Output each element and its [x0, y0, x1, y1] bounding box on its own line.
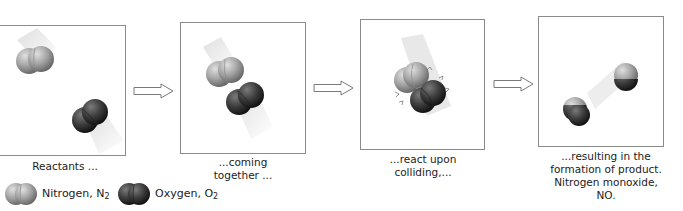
reactant-molecules [0, 26, 127, 157]
caption-line: Nitrogen monoxide, NO. [546, 176, 666, 202]
caption-coming-together: ...coming together ... [198, 156, 288, 182]
nitrogen-molecule-icon [206, 57, 244, 87]
caption-reactants: Reactants ... [20, 160, 110, 173]
panel-product [538, 16, 664, 147]
caption-line: colliding,... [378, 166, 468, 179]
caption-line: ...react upon [378, 153, 468, 166]
panel-react-upon-colliding [360, 19, 485, 150]
caption-product: ...resulting in the formation of product… [546, 150, 666, 202]
legend-label-nitrogen: Nitrogen, N2 [42, 187, 110, 201]
caption-line: ...resulting in the [546, 150, 666, 163]
right-arrow-icon [133, 83, 175, 99]
panel-coming-together [180, 22, 306, 154]
product-molecules [539, 17, 665, 148]
caption-line: Reactants ... [20, 160, 110, 173]
panel-reactants [0, 25, 126, 156]
legend-oxygen: Oxygen, O2 [117, 181, 218, 207]
nitrogen-molecule-icon [4, 181, 38, 207]
approaching-molecules [181, 23, 307, 155]
nitrogen-monoxide-molecule-icon [614, 63, 638, 91]
nitrogen-molecule-icon [16, 46, 54, 74]
legend-label-oxygen: Oxygen, O2 [155, 187, 218, 201]
nitrogen-monoxide-molecule-icon [563, 97, 590, 126]
right-arrow-icon [313, 80, 355, 96]
caption-react-upon-colliding: ...react upon colliding,... [378, 153, 468, 179]
legend-nitrogen: Nitrogen, N2 [4, 181, 110, 207]
caption-line: formation of product. [546, 163, 666, 176]
colliding-molecules [361, 20, 486, 151]
right-arrow-icon [493, 76, 535, 92]
caption-line: ...coming [198, 156, 288, 169]
oxygen-molecule-icon [117, 181, 151, 207]
